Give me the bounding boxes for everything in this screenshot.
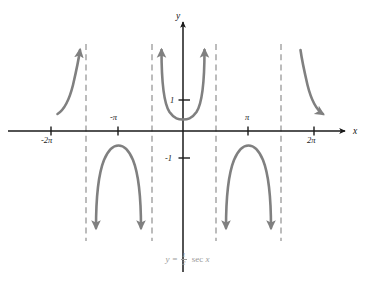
caption-lhs: y xyxy=(165,254,169,264)
y-tick-label-neg-1: -1 xyxy=(165,153,172,163)
caption-variable: x xyxy=(206,254,210,264)
x-axis-label: x xyxy=(353,126,357,136)
y-axis-label: y xyxy=(176,11,180,21)
branch-right-down xyxy=(226,146,271,229)
x-tick-label-2pi: 2π xyxy=(307,135,316,145)
axis-group xyxy=(8,22,345,272)
y-tick-label-1: 1 xyxy=(170,95,174,105)
caption-fraction: 1 2 xyxy=(181,252,187,267)
curve-group xyxy=(58,50,324,228)
x-tick-label-neg-2pi: -2π xyxy=(41,135,52,145)
branch-left-down xyxy=(96,146,141,229)
branch-right-outer-up xyxy=(301,50,324,114)
branch-left-outer-up xyxy=(58,50,81,114)
x-tick-label-pi: π xyxy=(245,112,249,122)
secant-graph-figure: -2π -π π 2π 1 -1 x y y = 1 2 sec x xyxy=(0,0,375,284)
x-tick-label-neg-pi: -π xyxy=(110,112,117,122)
plot-canvas xyxy=(0,0,375,284)
caption-fraction-denominator: 2 xyxy=(181,260,187,267)
caption-equals: = xyxy=(172,254,178,264)
figure-caption: y = 1 2 sec x xyxy=(0,252,375,267)
caption-function-name: sec xyxy=(192,254,204,264)
